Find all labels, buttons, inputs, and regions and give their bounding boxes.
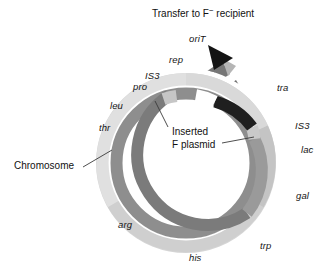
label-is3-left: IS3 — [145, 70, 160, 81]
callout-line-2: F plasmid — [172, 139, 215, 152]
label-gal: gal — [296, 190, 309, 201]
callout-inserted-f-plasmid: Inserted F plasmid — [172, 126, 215, 151]
label-rep: rep — [169, 54, 183, 65]
hfr-chromosome-diagram: Transfer to F− recipient oriT rep IS3 IS… — [0, 0, 333, 278]
page-title: Transfer to F− recipient — [152, 8, 254, 19]
diagram-canvas — [0, 0, 333, 278]
title-text-after: recipient — [214, 8, 255, 19]
label-thr: thr — [99, 122, 110, 133]
label-is3-right: IS3 — [295, 120, 310, 131]
label-tra: tra — [277, 82, 288, 93]
label-leu: leu — [110, 100, 123, 111]
label-pro: pro — [133, 81, 147, 92]
plasmid-open-gap — [196, 95, 215, 101]
callout-chromosome: Chromosome — [14, 160, 74, 173]
callout-line-1: Inserted — [172, 126, 215, 139]
f-plasmid-ring — [117, 94, 262, 233]
is3-band-left — [164, 96, 177, 99]
label-lac: lac — [301, 144, 313, 155]
title-text-before: Transfer to F — [152, 8, 209, 19]
label-his: his — [189, 252, 201, 263]
label-trp: trp — [260, 240, 271, 251]
label-oriT: oriT — [189, 33, 206, 44]
label-arg: arg — [118, 219, 132, 230]
